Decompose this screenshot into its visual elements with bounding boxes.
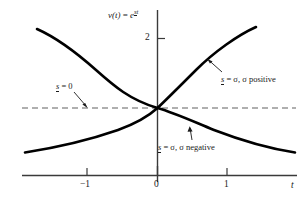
annotation-s-zero: s = 0 — [56, 81, 73, 91]
annotation-leader-sigma-positive — [207, 59, 222, 72]
y-axis-title-exponent: st — [134, 8, 138, 16]
xtick-label-1: 1 — [224, 179, 229, 189]
annotation-sigma-positive: s = σ, σ positive — [221, 74, 276, 84]
y-axis-title-arg: (t) — [112, 10, 121, 20]
series-line-sigma-negative — [37, 29, 295, 153]
annotation-leader-s-zero — [74, 92, 88, 108]
y-axis-title-equals: = — [121, 10, 131, 20]
annotation-sigma-negative: s = σ, σ negative — [158, 142, 215, 152]
chart-canvas — [0, 0, 306, 204]
annotation-leader-sigma-negative — [188, 126, 193, 140]
y-axis-exponent-t: t — [137, 8, 139, 15]
xtick-label-neg1: −1 — [80, 179, 90, 189]
ytick-label-2: 2 — [145, 32, 150, 42]
exponential-signal-figure: v(t) = est 2 −1 0 1 t s = 0 s = σ, σ pos… — [0, 0, 306, 204]
y-axis-title: v(t) = est — [108, 8, 138, 20]
annotation-sigma-negative-text: = σ, σ negative — [161, 142, 214, 152]
annotation-sigma-positive-text: = σ, σ positive — [224, 74, 276, 84]
xtick-label-0: 0 — [154, 179, 159, 189]
annotation-s-zero-text: = 0 — [59, 81, 72, 91]
x-axis-title: t — [291, 180, 294, 190]
